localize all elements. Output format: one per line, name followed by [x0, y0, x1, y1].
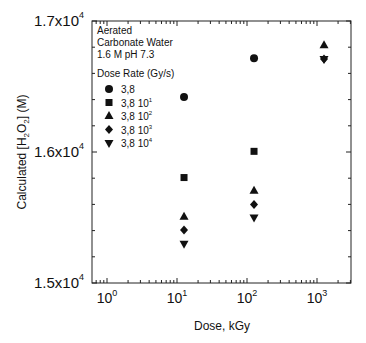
legend-entry-label: 3,8 103 [121, 124, 153, 136]
data-point-circle [250, 54, 258, 62]
triangle-up-icon [105, 111, 114, 119]
x-tick-label: 102 [237, 288, 258, 306]
data-point-triangle-down [250, 215, 259, 223]
svg-text:1.6 M pH 7.3: 1.6 M pH 7.3 [97, 49, 155, 60]
plot-frame [92, 21, 351, 283]
data-point-triangle-down [320, 56, 329, 64]
diamond-icon [105, 125, 113, 134]
x-tick-label: 101 [167, 288, 188, 306]
data-point-diamond [250, 200, 258, 209]
x-axis-ticks [96, 21, 350, 283]
data-point-diamond [180, 225, 188, 234]
data-point-square [181, 174, 188, 181]
chart: 100101102103 1.5x1041.6x1041.7x104 Dose,… [0, 0, 366, 343]
x-tick-label: 100 [97, 288, 118, 306]
x-axis-tick-labels: 100101102103 [97, 288, 328, 306]
legend: Dose Rate (Gy/s) 3,83,8 1013,8 1023,8 10… [97, 68, 174, 149]
y-axis-tick-labels: 1.5x1041.6x1041.7x104 [34, 10, 84, 291]
y-axis-ticks [92, 21, 351, 283]
data-point-circle [180, 93, 188, 101]
data-point-triangle-up [250, 186, 259, 194]
data-point-triangle-up [180, 212, 189, 220]
square-icon [106, 99, 113, 106]
legend-entry-label: 3,8 101 [121, 97, 153, 109]
x-tick-label: 103 [307, 288, 328, 306]
legend-title: Dose Rate (Gy/s) [97, 68, 174, 79]
svg-text:Carbonate Water: Carbonate Water [97, 37, 173, 48]
data-point-triangle-down [180, 241, 189, 249]
y-tick-label: 1.7x104 [34, 10, 84, 29]
data-point-square [251, 148, 258, 155]
annotation: Aerated Carbonate Water 1.6 M pH 7.3 [97, 25, 173, 60]
legend-entry-label: 3,8 [121, 84, 135, 95]
svg-text:Aerated: Aerated [97, 25, 132, 36]
x-axis-label: Dose, kGy [194, 319, 250, 333]
triangle-down-icon [105, 140, 114, 148]
data-point-triangle-up [320, 40, 329, 48]
legend-entry-label: 3,8 102 [121, 110, 153, 122]
y-tick-label: 1.5x104 [34, 272, 84, 291]
data-points [180, 40, 329, 248]
legend-entry-label: 3,8 104 [121, 137, 153, 149]
y-tick-label: 1.6x104 [34, 141, 84, 160]
y-axis-label: Calculated [H2O2] (M) [15, 95, 31, 210]
circle-icon [105, 85, 113, 93]
